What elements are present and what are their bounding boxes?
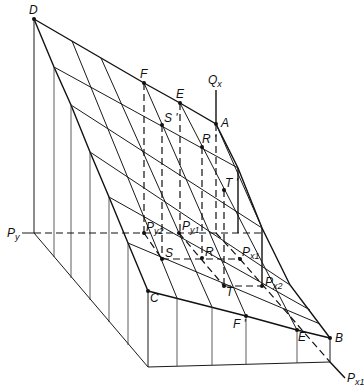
label-px2: Px2 xyxy=(265,275,283,291)
point-a xyxy=(214,122,218,126)
base-left-edge xyxy=(34,233,148,367)
grid-line xyxy=(101,58,212,307)
py2-s-line xyxy=(144,233,162,259)
labels: D F E A Qx S ' R ' T ' Py Py2 Py1 S R Px… xyxy=(7,3,364,387)
grid-line xyxy=(144,83,246,316)
label-qx: Qx xyxy=(208,73,222,89)
point-e xyxy=(178,101,182,105)
left-wall xyxy=(34,19,148,367)
label-f: F xyxy=(140,67,148,81)
left-edge xyxy=(34,19,148,291)
label-t-prime: T ' xyxy=(225,176,239,190)
label-r: R xyxy=(205,245,214,259)
label-e-top: E xyxy=(176,87,185,101)
surface-outline xyxy=(34,19,330,338)
label-px1-inner: Px1 xyxy=(242,245,260,261)
label-px1-axis: Px1 xyxy=(347,371,364,387)
label-s-prime: S ' xyxy=(164,111,178,125)
point-py1 xyxy=(177,231,181,235)
point-s xyxy=(160,257,164,261)
label-py1: Py1 xyxy=(182,219,200,235)
px1-axis xyxy=(330,362,345,378)
points xyxy=(32,17,332,340)
base-front-edge xyxy=(148,362,330,367)
point-px2 xyxy=(260,284,264,288)
label-a: A xyxy=(220,116,229,130)
label-d: D xyxy=(29,3,38,17)
point-r xyxy=(200,256,204,260)
point-f xyxy=(142,81,146,85)
label-e-bottom: E xyxy=(298,330,307,344)
label-c: C xyxy=(150,291,159,305)
label-r-prime: R ' xyxy=(202,132,217,146)
point-d xyxy=(32,17,36,21)
surface-diagram: D F E A Qx S ' R ' T ' Py Py2 Py1 S R Px… xyxy=(0,0,364,392)
label-f-prime: F ' xyxy=(233,317,246,331)
point-b xyxy=(328,336,332,340)
label-s: S xyxy=(165,246,173,260)
label-py: Py xyxy=(7,226,20,242)
top-edge xyxy=(34,19,330,338)
label-b: B xyxy=(335,331,343,345)
grid-line xyxy=(216,124,262,228)
